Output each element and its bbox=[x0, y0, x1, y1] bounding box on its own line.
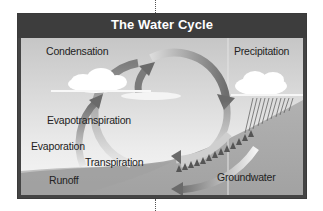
bottom-dotted-guide bbox=[155, 199, 156, 211]
label-precipitation: Precipitation bbox=[234, 45, 289, 57]
label-runoff: Runoff bbox=[49, 174, 79, 186]
label-transpiration: Transpiration bbox=[85, 156, 143, 168]
label-evapotranspiration: Evapotranspiration bbox=[47, 114, 131, 126]
water-cycle-diagram: The Water Cycle bbox=[17, 13, 307, 199]
diagram-header: The Water Cycle bbox=[18, 14, 306, 38]
label-evaporation: Evaporation bbox=[31, 140, 85, 152]
label-condensation: Condensation bbox=[46, 45, 108, 57]
diagram-title: The Water Cycle bbox=[18, 17, 306, 32]
diagram-scene: Condensation Precipitation Evapotranspir… bbox=[21, 38, 303, 195]
label-groundwater: Groundwater bbox=[217, 171, 276, 183]
top-dotted-guide bbox=[155, 0, 156, 13]
